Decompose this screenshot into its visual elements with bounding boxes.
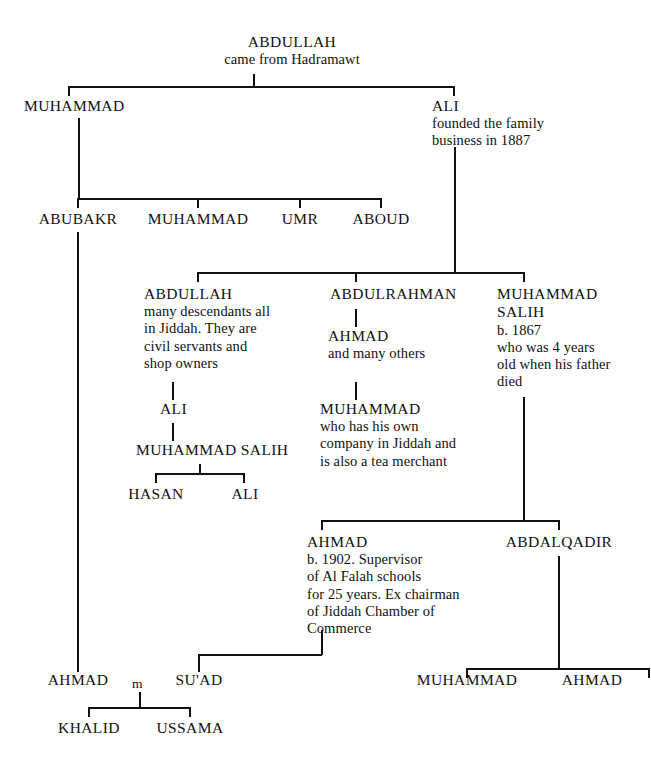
connector-abdullah-g4-to-ali bbox=[172, 382, 174, 400]
connector-aboud-tick bbox=[380, 198, 382, 208]
node-description: and many others bbox=[328, 345, 508, 362]
node-ahmad-1902: AHMAD b. 1902. Supervisor of Al Falah sc… bbox=[307, 533, 517, 637]
connector-gen2-bar bbox=[68, 86, 455, 88]
connector-abdalqadir-descent bbox=[558, 556, 560, 669]
node-ali-g7: ALI bbox=[222, 485, 268, 503]
node-name: USSAMA bbox=[140, 719, 240, 737]
node-ali-g5: ALI bbox=[160, 400, 250, 418]
connector-ali-g2-tick bbox=[453, 86, 455, 96]
connector-abubakr-tick bbox=[77, 198, 79, 208]
node-name: ABDULLAH bbox=[144, 285, 334, 303]
connector-abdalqadir-children-bar bbox=[466, 668, 650, 670]
connector-abdulrahman-tick bbox=[355, 272, 357, 282]
connector-muhammad-salih-1867-descent bbox=[523, 397, 525, 521]
node-muhammad-bottom: MUHAMMAD bbox=[400, 671, 534, 689]
connector-hasan-ali-bar bbox=[155, 473, 245, 475]
node-abdalqadir: ABDALQADIR bbox=[493, 533, 625, 551]
connector-abubakr-long-descent bbox=[77, 232, 79, 672]
node-ahmad-bottom-left: AHMAD bbox=[32, 671, 124, 689]
genealogy-chart: ABDULLAH came from Hadramawt MUHAMMAD AL… bbox=[0, 0, 651, 772]
node-name: ALI bbox=[432, 97, 612, 115]
node-name: MUHAMMAD bbox=[400, 671, 534, 689]
connector-muhammad-g2-stub bbox=[78, 118, 80, 198]
node-name: UMR bbox=[268, 210, 332, 228]
connector-muhammad-g2-tick bbox=[68, 86, 70, 96]
node-muhammad-tea: MUHAMMAD who has his own company in Jidd… bbox=[320, 400, 520, 470]
node-name: ALI bbox=[222, 485, 268, 503]
connector-abdulrahman-to-ahmad bbox=[355, 309, 357, 327]
node-khalid: KHALID bbox=[44, 719, 134, 737]
node-description: who has his own company in Jiddah and is… bbox=[320, 418, 520, 469]
node-name: ABDALQADIR bbox=[493, 533, 625, 551]
node-umr: UMR bbox=[268, 210, 332, 228]
connector-ahmad1902-to-suad-bar bbox=[198, 654, 322, 656]
connector-muhammad-g3-tick bbox=[197, 198, 199, 208]
node-abdulrahman: ABDULRAHMAN bbox=[330, 285, 500, 303]
connector-gen4-bar bbox=[197, 272, 525, 274]
connector-ahmad1902-to-suad-drop bbox=[321, 630, 323, 655]
node-description: many descendants all in Jiddah. They are… bbox=[144, 303, 334, 371]
node-abubakr: ABUBAKR bbox=[18, 210, 138, 228]
node-name: AHMAD bbox=[328, 327, 508, 345]
connector-marriage-stem bbox=[139, 692, 141, 708]
node-name: AHMAD bbox=[307, 533, 517, 551]
connector-suad-stem bbox=[198, 654, 200, 672]
node-description: came from Hadramawt bbox=[193, 51, 391, 68]
connector-muhammad-salih-1867-tick bbox=[523, 272, 525, 282]
connector-abdalqadir-tick bbox=[558, 520, 560, 530]
connector-abdullah-g4-tick bbox=[197, 272, 199, 282]
node-hasan: HASAN bbox=[118, 485, 194, 503]
node-description: b. 1902. Supervisor of Al Falah schools … bbox=[307, 551, 517, 637]
node-abdullah-g4: ABDULLAH many descendants all in Jiddah.… bbox=[144, 285, 334, 372]
node-name: ABUBAKR bbox=[18, 210, 138, 228]
connector-khalid-ussama-bar bbox=[88, 707, 191, 709]
node-name: MUHAMMAD bbox=[24, 97, 164, 115]
node-abdullah-root: ABDULLAH came from Hadramawt bbox=[193, 33, 391, 68]
connector-ahmad1902-abdalqadir-bar bbox=[321, 520, 560, 522]
connector-ali-g5-to-muhammad-salih bbox=[172, 423, 174, 441]
node-name: ABDULLAH bbox=[193, 33, 391, 51]
node-name: SU'AD bbox=[160, 671, 238, 689]
node-ali-g2: ALI founded the family business in 1887 bbox=[432, 97, 612, 150]
node-name: ALI bbox=[160, 400, 250, 418]
connector-ahmad1902-tick bbox=[321, 520, 323, 530]
node-description: founded the family business in 1887 bbox=[432, 115, 612, 149]
node-ussama: USSAMA bbox=[140, 719, 240, 737]
node-name: ABOUD bbox=[340, 210, 422, 228]
node-suad: SU'AD bbox=[160, 671, 238, 689]
node-name: ABDULRAHMAN bbox=[330, 285, 500, 303]
node-muhammad-g2: MUHAMMAD bbox=[24, 97, 164, 115]
connector-hasan-tick bbox=[155, 473, 157, 483]
node-name: MUHAMMAD bbox=[320, 400, 520, 418]
connector-ali-g7-tick bbox=[243, 473, 245, 483]
node-name: MUHAMMAD bbox=[131, 210, 265, 228]
node-ahmad-bottom-right: AHMAD bbox=[548, 671, 636, 689]
connector-ali-g2-stem bbox=[454, 147, 456, 273]
node-muhammad-salih-1867: MUHAMMAD SALIH b. 1867 who was 4 years o… bbox=[497, 285, 651, 390]
node-name: HASAN bbox=[118, 485, 194, 503]
node-ahmad-many-others: AHMAD and many others bbox=[328, 327, 508, 362]
node-name: MUHAMMAD SALIH bbox=[136, 441, 346, 459]
node-description: b. 1867 who was 4 years old when his fat… bbox=[497, 322, 651, 390]
marriage-symbol: m bbox=[132, 676, 143, 692]
node-muhammad-g3: MUHAMMAD bbox=[131, 210, 265, 228]
node-name: AHMAD bbox=[32, 671, 124, 689]
connector-gen3-bar bbox=[77, 198, 382, 200]
connector-ahmad-to-muhammad-tea bbox=[355, 382, 357, 400]
connector-khalid-tick bbox=[88, 707, 90, 717]
connector-ahmad-bottom-right-tick bbox=[648, 668, 650, 678]
node-name: AHMAD bbox=[548, 671, 636, 689]
connector-ussama-tick bbox=[189, 707, 191, 717]
node-name: KHALID bbox=[44, 719, 134, 737]
node-name: MUHAMMAD SALIH bbox=[497, 285, 651, 322]
connector-umr-tick bbox=[299, 198, 301, 208]
node-muhammad-salih-g6: MUHAMMAD SALIH bbox=[136, 441, 346, 459]
node-aboud: ABOUD bbox=[340, 210, 422, 228]
